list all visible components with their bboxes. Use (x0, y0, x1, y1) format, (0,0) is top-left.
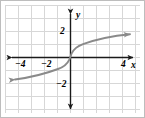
y-axis-label: y (76, 11, 80, 21)
y-tick-label-pos2: 2 (60, 27, 65, 37)
x-axis-label: x (131, 61, 136, 71)
y-tick-label-neg2: −2 (56, 80, 67, 90)
x-tick-label-pos4: 4 (121, 60, 126, 70)
graph-figure: −4 −2 4 x 2 −2 y (0, 0, 145, 118)
x-tick-label-neg4: −4 (15, 60, 26, 70)
x-tick-label-neg2: −2 (41, 60, 52, 70)
